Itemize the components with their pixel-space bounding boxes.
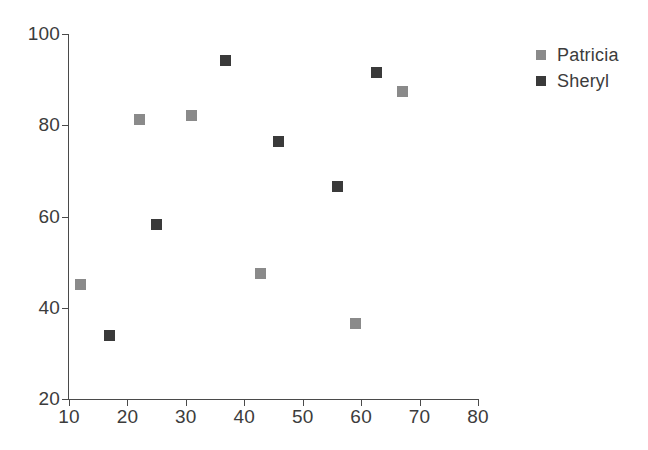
- x-axis-tick-label: 10: [58, 406, 80, 428]
- y-axis-tick-label: 80: [38, 114, 60, 136]
- scatter-chart: 204060801001020304050607080 PatriciaSher…: [0, 0, 648, 450]
- data-point-sheryl: [273, 136, 284, 147]
- legend-item-patricia[interactable]: Patricia: [536, 42, 619, 68]
- x-axis-tick: [69, 399, 70, 406]
- x-axis-tick: [127, 399, 128, 406]
- y-axis-tick: [62, 125, 69, 126]
- legend-swatch-icon: [536, 76, 546, 86]
- data-point-patricia: [397, 86, 408, 97]
- legend-item-label: Sheryl: [557, 71, 609, 92]
- y-axis-tick-label: 20: [38, 388, 60, 410]
- data-point-patricia: [134, 114, 145, 125]
- x-axis-tick: [186, 399, 187, 406]
- x-axis-tick: [244, 399, 245, 406]
- x-axis-tick-label: 60: [350, 406, 372, 428]
- y-axis-tick-label: 40: [38, 297, 60, 319]
- data-point-patricia: [75, 279, 86, 290]
- x-axis-tick-label: 50: [292, 406, 314, 428]
- legend-swatch-icon: [536, 50, 546, 60]
- data-point-sheryl: [220, 55, 231, 66]
- data-point-sheryl: [371, 67, 382, 78]
- x-axis-tick-label: 30: [175, 406, 197, 428]
- x-axis-tick-label: 80: [467, 406, 489, 428]
- data-point-sheryl: [151, 219, 162, 230]
- legend-item-label: Patricia: [557, 45, 619, 66]
- data-point-patricia: [350, 318, 361, 329]
- y-axis-tick-label: 100: [28, 23, 60, 45]
- x-axis-tick: [478, 399, 479, 406]
- data-point-sheryl: [332, 181, 343, 192]
- y-axis-tick: [62, 34, 69, 35]
- y-axis-tick-label: 60: [38, 206, 60, 228]
- data-point-patricia: [186, 110, 197, 121]
- legend-item-sheryl[interactable]: Sheryl: [536, 68, 619, 94]
- y-axis-tick: [62, 308, 69, 309]
- y-axis-tick: [62, 217, 69, 218]
- x-axis-tick: [361, 399, 362, 406]
- x-axis-tick: [303, 399, 304, 406]
- y-axis-tick: [62, 399, 69, 400]
- x-axis-tick: [420, 399, 421, 406]
- x-axis-tick-label: 40: [234, 406, 256, 428]
- x-axis-tick-label: 70: [409, 406, 431, 428]
- data-point-patricia: [255, 268, 266, 279]
- data-point-sheryl: [104, 330, 115, 341]
- x-axis-tick-label: 20: [117, 406, 139, 428]
- chart-legend: PatriciaSheryl: [536, 42, 619, 94]
- plot-area: 204060801001020304050607080: [68, 34, 478, 400]
